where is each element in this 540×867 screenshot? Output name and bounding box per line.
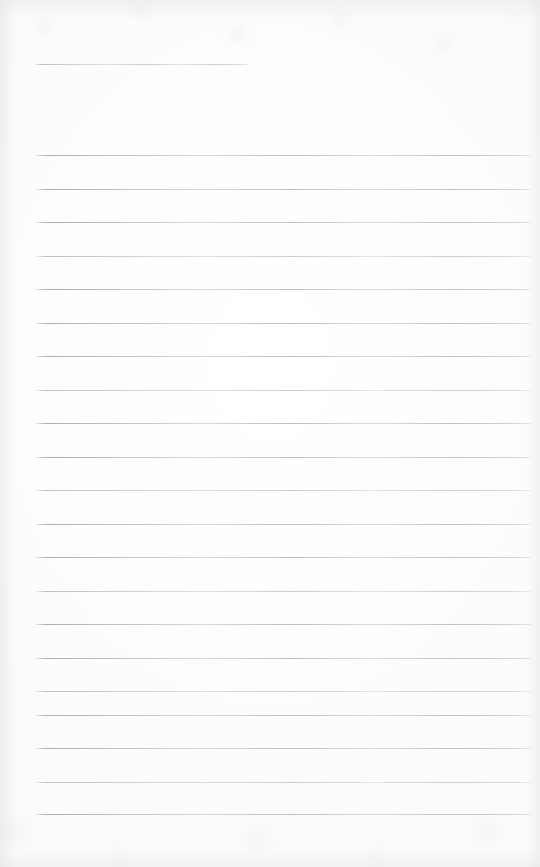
ruled-line [36,423,531,424]
ruled-line-group [0,0,540,867]
ruled-line [36,814,531,815]
ruled-line [36,356,531,357]
ruled-line [36,323,531,324]
ruled-line [36,691,531,692]
ruled-line [36,624,531,625]
scanned-page [0,0,540,867]
ruled-line [36,155,531,156]
ruled-line [36,557,531,558]
ruled-line [36,490,531,491]
ruled-line [36,591,531,592]
ruled-line [36,64,249,65]
ruled-line [36,390,531,391]
ruled-line [36,715,531,716]
ruled-line [36,782,531,783]
ruled-line [36,289,531,290]
ruled-line [36,658,531,659]
ruled-line [36,748,531,749]
ruled-line [36,457,531,458]
ruled-line [36,189,531,190]
ruled-line [36,256,531,257]
ruled-line [36,222,531,223]
ruled-line [36,524,531,525]
